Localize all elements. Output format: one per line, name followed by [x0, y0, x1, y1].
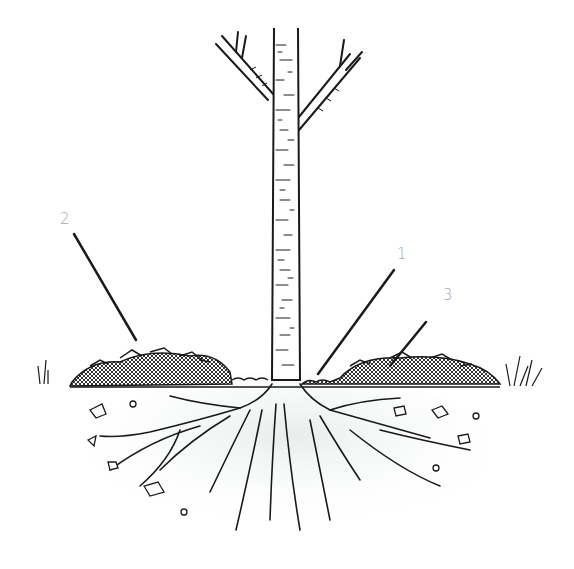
tree-mulch-diagram: 2 1 3	[0, 0, 574, 569]
callout-label-2: 2	[60, 212, 70, 227]
callout-label-3: 3	[443, 288, 453, 303]
callout-label-1: 1	[397, 247, 407, 262]
callout-line-2	[74, 234, 136, 340]
illustration	[0, 0, 574, 569]
soil-shading	[90, 370, 490, 530]
trunk	[272, 28, 300, 380]
